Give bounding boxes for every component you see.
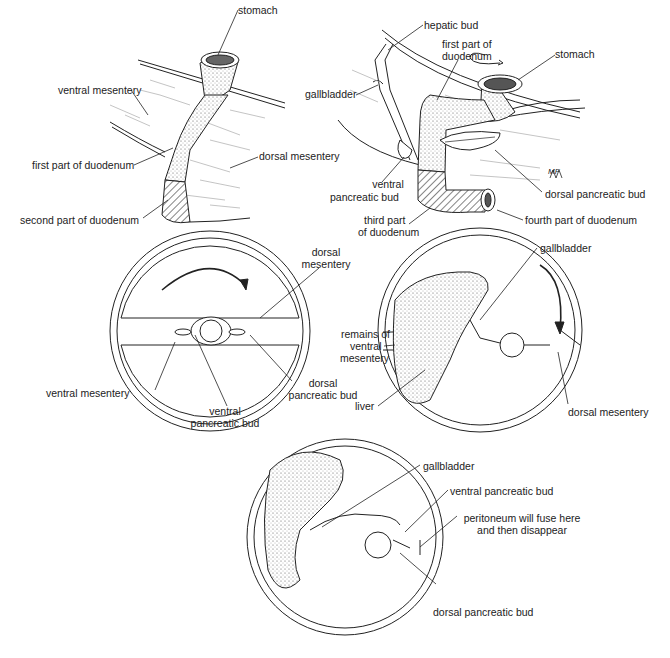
artist-signature: MF xyxy=(548,166,560,178)
label-first-part-l2-tr: duodenum xyxy=(442,50,492,62)
label-gallbladder-tr: gallbladder xyxy=(305,88,356,100)
label-hepatic-bud: hepatic bud xyxy=(424,19,478,31)
label-dorsal-bud-l1-ml: dorsal xyxy=(283,377,363,389)
label-ventral-mesentery-ml: ventral mesentery xyxy=(46,387,129,399)
label-ventral-bud-l1-tr: ventral xyxy=(358,178,418,190)
label-third-part-l1: third part xyxy=(364,214,405,226)
label-stomach-tl: stomach xyxy=(238,4,278,16)
label-dorsal-mesentery-mr: dorsal mesentery xyxy=(568,406,649,418)
label-dorsal-mesentery-tl: dorsal mesentery xyxy=(259,150,340,162)
label-gallbladder-bottom: gallbladder xyxy=(423,460,474,472)
label-peritoneum-l2: and then disappear xyxy=(452,524,592,536)
label-liver: liver xyxy=(355,400,374,412)
label-dorsal-bud-bottom: dorsal pancreatic bud xyxy=(433,606,533,618)
label-ventral-bud-l1-ml: ventral xyxy=(185,405,265,417)
label-dorsal-bud-l2-ml: pancreatic bud xyxy=(283,389,363,401)
middle-left-cross-section xyxy=(110,231,310,431)
label-fourth-part-duodenum: fourth part of duodenum xyxy=(525,214,637,226)
label-gallbladder-mr: gallbladder xyxy=(540,242,591,254)
label-first-part-l1-tr: first part of xyxy=(442,38,492,50)
middle-right-cross-section xyxy=(378,228,582,432)
label-ventral-bud-l2-tr: pancreatic bud xyxy=(330,191,399,203)
label-remains-l1: remains of xyxy=(341,328,390,340)
label-ventral-bud-bottom: ventral pancreatic bud xyxy=(450,485,553,497)
label-ventral-bud-l2-ml: pancreatic bud xyxy=(185,417,265,429)
label-dorsal-mesentery-l2-ml: mesentery xyxy=(296,258,356,270)
label-remains-l2: ventral xyxy=(350,340,382,352)
label-peritoneum-l1: peritoneum will fuse here xyxy=(452,512,592,524)
top-left-duodenum-drawing xyxy=(110,52,285,223)
label-third-part-l2: of duodenum xyxy=(358,226,419,238)
label-dorsal-pancreatic-bud-tr: dorsal pancreatic bud xyxy=(545,188,645,200)
bottom-cross-section xyxy=(247,439,443,635)
label-stomach-tr: stomach xyxy=(555,48,595,60)
label-dorsal-mesentery-l1-ml: dorsal xyxy=(296,246,356,258)
label-remains-l3: mesentery xyxy=(340,352,389,364)
label-ventral-mesentery-tl: ventral mesentery xyxy=(58,84,141,96)
label-second-part-duodenum-tl: second part of duodenum xyxy=(20,214,139,226)
label-first-part-duodenum-tl: first part of duodenum xyxy=(32,159,134,171)
